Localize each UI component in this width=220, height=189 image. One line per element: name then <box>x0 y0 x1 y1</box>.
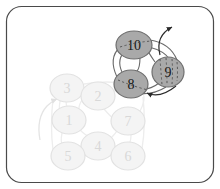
graph-diagram: 3 2 1 7 4 5 6 <box>0 0 220 189</box>
node-9[interactable]: 9 <box>152 57 184 87</box>
node-2-label: 2 <box>95 89 102 104</box>
figure-canvas: 3 2 1 7 4 5 6 <box>0 0 220 189</box>
node-7-label: 7 <box>125 114 132 129</box>
node-2[interactable]: 2 <box>81 82 115 110</box>
node-10-label: 10 <box>127 38 141 53</box>
node-8[interactable]: 8 <box>114 70 148 98</box>
node-7[interactable]: 7 <box>111 107 145 135</box>
node-5-label: 5 <box>65 149 72 164</box>
node-3[interactable]: 3 <box>50 74 84 102</box>
node-4[interactable]: 4 <box>81 132 115 160</box>
node-8-label: 8 <box>128 77 135 92</box>
node-1-label: 1 <box>66 113 73 128</box>
node-1[interactable]: 1 <box>52 106 86 134</box>
node-9-label: 9 <box>165 65 172 80</box>
node-3-label: 3 <box>64 81 71 96</box>
node-10[interactable]: 10 <box>116 31 152 59</box>
node-6[interactable]: 6 <box>111 142 145 170</box>
node-6-label: 6 <box>125 149 132 164</box>
node-5[interactable]: 5 <box>51 142 85 170</box>
node-4-label: 4 <box>95 139 102 154</box>
